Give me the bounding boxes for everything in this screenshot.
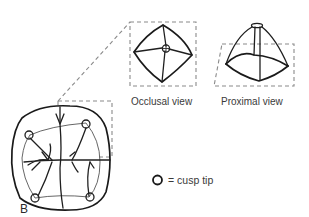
projection-lines bbox=[58, 22, 130, 101]
legend-text: = cusp tip bbox=[168, 174, 213, 186]
tooth-diagram bbox=[0, 0, 309, 217]
cusp-tip-marker bbox=[25, 131, 33, 139]
proximal-view-label: Proximal view bbox=[221, 96, 283, 107]
panel-label: B bbox=[20, 202, 28, 216]
legend-circle-icon bbox=[153, 176, 162, 185]
occlusal-view-label: Occlusal view bbox=[131, 96, 192, 107]
cusp-tip-marker bbox=[82, 120, 90, 128]
tooth-occlusal-outline bbox=[12, 106, 110, 210]
proximal-view-illustration bbox=[214, 23, 294, 86]
occlusal-view-illustration bbox=[130, 22, 196, 86]
